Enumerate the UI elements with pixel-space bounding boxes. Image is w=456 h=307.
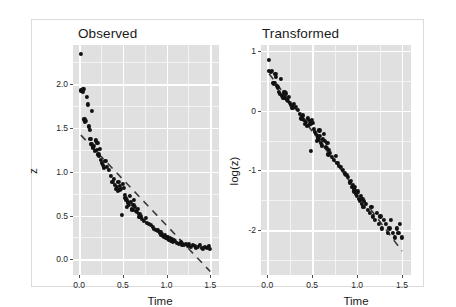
data-point — [95, 141, 99, 145]
plot-panel-observed — [73, 45, 219, 275]
data-point — [84, 119, 88, 123]
x-tick-label: 1.0 — [161, 280, 173, 290]
y-tick-label: 1.0 — [56, 167, 68, 177]
gridline-minor-horizontal — [73, 237, 219, 238]
gridline-minor-horizontal — [261, 200, 411, 201]
x-tick-label: 0.5 — [306, 280, 318, 290]
y-tick-mark — [70, 128, 73, 129]
data-point — [301, 113, 305, 117]
data-point — [396, 230, 400, 234]
x-tick-mark — [167, 275, 168, 278]
data-point — [122, 185, 126, 189]
x-tick-mark — [357, 275, 358, 278]
y-tick-mark — [70, 216, 73, 217]
gridline-minor-vertical — [145, 45, 146, 275]
data-point — [393, 235, 397, 239]
gridline-horizontal — [261, 111, 411, 112]
data-point — [311, 121, 315, 125]
data-point — [208, 247, 212, 251]
y-tick-label: 0 — [251, 106, 256, 116]
gridline-vertical — [267, 45, 268, 275]
y-axis-title-observed: z — [27, 168, 39, 174]
y-tick-mark — [258, 51, 261, 52]
data-point — [88, 128, 92, 132]
y-tick-mark — [70, 84, 73, 85]
y-tick-label: -2 — [248, 225, 256, 235]
x-tick-label: 0.0 — [73, 280, 85, 290]
figure-frame: Observed Time z 0.00.51.01.50.00.51.01.5… — [31, 19, 424, 287]
x-tick-label: 0.0 — [261, 280, 273, 290]
y-tick-mark — [258, 230, 261, 231]
x-tick-mark — [79, 275, 80, 278]
gridline-minor-vertical — [290, 45, 291, 275]
gridline-horizontal — [73, 172, 219, 173]
data-point — [88, 136, 92, 140]
x-tick-mark — [312, 275, 313, 278]
gridline-minor-horizontal — [261, 260, 411, 261]
gridline-horizontal — [73, 128, 219, 129]
y-tick-label: -1 — [248, 165, 256, 175]
gridline-vertical — [312, 45, 313, 275]
gridline-minor-vertical — [188, 45, 189, 275]
data-point — [325, 141, 329, 145]
x-tick-label: 0.5 — [117, 280, 129, 290]
x-tick-mark — [267, 275, 268, 278]
y-tick-mark — [258, 170, 261, 171]
data-point — [369, 205, 373, 209]
gridline-minor-horizontal — [73, 62, 219, 63]
y-tick-label: 0.0 — [56, 254, 68, 264]
x-axis-title-observed: Time — [147, 295, 172, 307]
data-point — [112, 177, 116, 181]
x-tick-mark — [402, 275, 403, 278]
y-tick-mark — [70, 259, 73, 260]
facet-transformed: Transformed Time log(z) 0.00.51.01.5-2-1… — [228, 20, 425, 286]
facet-title-transformed: Transformed — [262, 26, 339, 41]
data-point — [322, 132, 326, 136]
x-tick-mark — [123, 275, 124, 278]
y-tick-label: 1.5 — [56, 123, 68, 133]
data-point — [81, 87, 85, 91]
data-point — [356, 189, 360, 193]
data-point — [85, 95, 89, 99]
gridline-vertical — [357, 45, 358, 275]
data-point — [128, 194, 132, 198]
gridline-vertical — [123, 45, 124, 275]
facet-title-observed: Observed — [78, 26, 137, 41]
x-tick-mark — [210, 275, 211, 278]
x-tick-label: 1.5 — [204, 280, 216, 290]
gridline-minor-horizontal — [261, 81, 411, 82]
trend-line — [73, 45, 219, 275]
data-point — [400, 235, 404, 239]
x-axis-title-transformed: Time — [343, 295, 368, 307]
y-axis-title-transformed: log(z) — [228, 157, 240, 186]
data-point — [267, 58, 271, 62]
data-point — [333, 154, 337, 158]
y-tick-mark — [70, 172, 73, 173]
data-point — [79, 52, 83, 56]
data-point — [317, 128, 321, 132]
gridline-horizontal — [261, 51, 411, 52]
gridline-horizontal — [73, 259, 219, 260]
y-tick-mark — [258, 111, 261, 112]
gridline-vertical — [79, 45, 80, 275]
gridline-horizontal — [261, 170, 411, 171]
gridline-minor-horizontal — [73, 194, 219, 195]
gridline-minor-horizontal — [261, 141, 411, 142]
data-point — [136, 206, 140, 210]
data-point — [90, 108, 94, 112]
data-point — [364, 202, 368, 206]
y-tick-label: 0.5 — [56, 211, 68, 221]
data-point — [386, 230, 390, 234]
gridline-minor-vertical — [380, 45, 381, 275]
y-tick-label: 2.0 — [56, 79, 68, 89]
gridline-vertical — [402, 45, 403, 275]
gridline-vertical — [210, 45, 211, 275]
gridline-minor-horizontal — [73, 106, 219, 107]
data-point — [391, 230, 395, 234]
y-tick-label: 1 — [251, 46, 256, 56]
data-point — [389, 218, 393, 222]
x-tick-label: 1.5 — [396, 280, 408, 290]
data-point — [103, 159, 107, 163]
gridline-horizontal — [73, 84, 219, 85]
x-tick-label: 1.0 — [351, 280, 363, 290]
